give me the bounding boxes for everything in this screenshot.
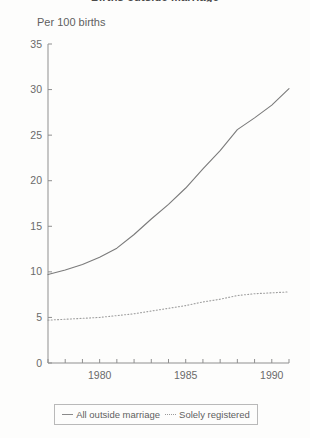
y-axis-tick-label: 30: [30, 83, 42, 95]
y-axis-tick-label: 10: [30, 265, 42, 277]
y-axis-tick-label: 5: [36, 311, 42, 323]
plot-area: 05101520253035198019851990: [0, 0, 310, 438]
series-line-all-outside-marriage: [48, 89, 289, 275]
dotted-line-swatch-icon: [165, 414, 176, 415]
series-layer: [48, 89, 289, 321]
axes-layer: 05101520253035198019851990: [30, 38, 289, 381]
y-axis-tick-label: 15: [30, 220, 42, 232]
x-axis-tick-label: 1990: [260, 369, 284, 381]
solid-line-swatch-icon: [62, 414, 73, 415]
legend: All outside marriage Solely registered: [54, 404, 258, 425]
chart-container: Births outside marriage Per 100 births 0…: [0, 0, 310, 438]
y-axis-tick-label: 0: [36, 357, 42, 369]
legend-label-all-outside-marriage: All outside marriage: [76, 409, 160, 420]
x-axis-tick-label: 1980: [88, 369, 112, 381]
y-axis-tick-label: 20: [30, 174, 42, 186]
y-axis-tick-label: 25: [30, 129, 42, 141]
legend-item-all-outside-marriage: All outside marriage: [62, 409, 160, 420]
y-axis-tick-label: 35: [30, 38, 42, 50]
series-line-solely-registered: [48, 292, 289, 320]
legend-item-solely-registered: Solely registered: [165, 409, 250, 420]
legend-label-solely-registered: Solely registered: [179, 409, 250, 420]
x-axis-tick-label: 1985: [174, 369, 198, 381]
